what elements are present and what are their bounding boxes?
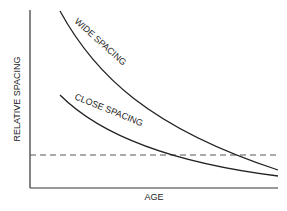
spacing-age-diagram: WIDE SPACING CLOSE SPACING AGE RELATIVE … (0, 0, 287, 211)
x-axis-label: AGE (144, 192, 163, 202)
y-axis-label: RELATIVE SPACING (12, 56, 22, 141)
wide-spacing-label: WIDE SPACING (73, 16, 129, 67)
close-spacing-label: CLOSE SPACING (73, 92, 144, 129)
